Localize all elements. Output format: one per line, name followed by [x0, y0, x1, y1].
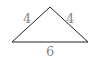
left-side-label: 4 [23, 12, 31, 25]
right-side-label: 4 [66, 12, 74, 25]
base-label: 6 [46, 45, 54, 58]
